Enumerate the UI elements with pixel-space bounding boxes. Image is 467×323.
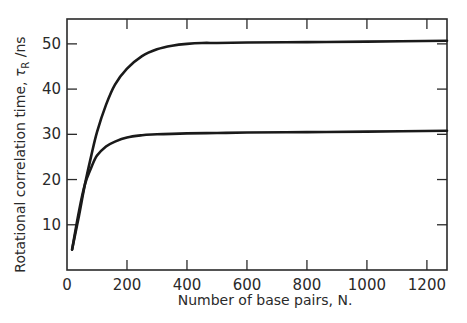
- y-tick-label: 50: [42, 35, 61, 53]
- series-line: [72, 41, 447, 250]
- x-axis-ticks: 020040060080010001200: [62, 19, 446, 294]
- x-tick-label: 1000: [348, 276, 386, 294]
- y-axis-label-suffix: /ns: [12, 36, 28, 61]
- y-axis-label-subscript: R: [20, 62, 31, 69]
- y-axis-label-prefix: Rotational correlation time,: [12, 77, 28, 273]
- data-series: [72, 41, 447, 250]
- y-axis-label: Rotational correlation time, τR /ns: [12, 36, 31, 272]
- chart: 020040060080010001200 1020304050 Number …: [0, 0, 467, 323]
- series-line: [72, 131, 447, 250]
- plot-frame: [67, 19, 447, 270]
- y-tick-label: 40: [42, 80, 61, 98]
- x-tick-label: 1200: [408, 276, 446, 294]
- y-tick-label: 10: [42, 216, 61, 234]
- x-tick-label: 200: [113, 276, 142, 294]
- x-axis-label: Number of base pairs, N.: [178, 292, 353, 308]
- y-tick-label: 20: [42, 171, 61, 189]
- x-tick-label: 0: [62, 276, 72, 294]
- y-tick-label: 30: [42, 125, 61, 143]
- y-axis-ticks: 1020304050: [42, 35, 447, 234]
